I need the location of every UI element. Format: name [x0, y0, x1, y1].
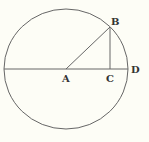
geometry-diagram: A B C D: [0, 0, 149, 142]
label-a: A: [61, 73, 70, 84]
label-d: D: [131, 64, 140, 75]
segment-ab: [66, 27, 110, 69]
label-c: C: [106, 73, 114, 84]
label-b: B: [111, 16, 119, 27]
